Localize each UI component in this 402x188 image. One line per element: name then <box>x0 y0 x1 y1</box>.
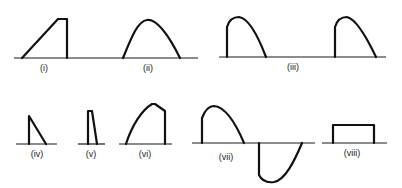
waveform-v <box>88 111 97 144</box>
waveform-vii-negative-lobe <box>259 143 302 182</box>
panel-ii: (ii) <box>123 20 180 73</box>
waveform-vi <box>126 104 165 144</box>
label-vii: (vii) <box>219 152 234 162</box>
label-ii: (ii) <box>143 63 153 73</box>
panel-v: (v) <box>78 111 105 159</box>
waveform-ii <box>123 20 180 58</box>
label-viii: (viii) <box>344 148 361 158</box>
panel-viii: (viii) <box>322 125 387 158</box>
label-iii: (iii) <box>287 62 299 72</box>
waveform-iii-pulse-2 <box>335 17 376 57</box>
waveform-viii <box>333 125 374 143</box>
label-iv: (iv) <box>31 149 44 159</box>
waveform-iv <box>29 116 46 144</box>
waveform-diagram: (i) (ii) (iii) (iv) (v) (vi) (vii) (viii… <box>0 0 402 188</box>
label-i: (i) <box>40 63 48 73</box>
waveform-iii-pulse-1 <box>227 17 266 57</box>
panel-vi: (vi) <box>119 104 172 159</box>
waveform-vii-positive-lobe <box>202 106 244 143</box>
panel-i: (i) <box>14 19 198 73</box>
label-vi: (vi) <box>139 149 152 159</box>
label-v: (v) <box>86 149 97 159</box>
panel-iii: (iii) <box>219 17 386 72</box>
panel-vii: (vii) <box>192 106 315 182</box>
waveform-i <box>22 19 67 58</box>
panel-iv: (iv) <box>16 116 57 159</box>
